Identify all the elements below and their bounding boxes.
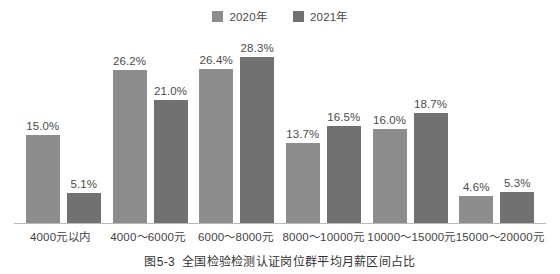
bar-item[interactable]: 26.4% <box>199 31 233 223</box>
bar-value-label: 4.6% <box>463 181 490 193</box>
bar-item[interactable]: 16.0% <box>373 31 407 223</box>
legend-item-2020: 2020年 <box>212 8 267 24</box>
bar-group: 4.6%5.3% <box>453 31 540 223</box>
bar-value-label: 26.2% <box>113 55 146 67</box>
bar[interactable] <box>154 100 188 223</box>
bar-value-label: 16.5% <box>327 111 360 123</box>
bar[interactable] <box>67 193 101 223</box>
legend-swatch-icon <box>293 11 304 22</box>
bar-value-label: 16.0% <box>373 114 406 126</box>
bar[interactable] <box>199 69 233 223</box>
bar-item[interactable]: 28.3% <box>240 31 274 223</box>
bar[interactable] <box>414 113 448 222</box>
bar[interactable] <box>26 135 60 223</box>
legend-label: 2020年 <box>229 8 267 24</box>
bar-value-label: 15.0% <box>26 120 59 132</box>
bar[interactable] <box>113 70 147 223</box>
bar-value-label: 26.4% <box>200 54 233 66</box>
x-axis-tick-label: 4000～6000元 <box>104 228 192 244</box>
legend-label: 2021年 <box>310 8 348 24</box>
chart-figure: 2020年 2021年 15.0%5.1%26.2%21.0%26.4%28.3… <box>0 0 560 274</box>
bar-groups: 15.0%5.1%26.2%21.0%26.4%28.3%13.7%16.5%1… <box>14 31 546 223</box>
bar-group: 26.2%21.0% <box>107 31 194 223</box>
caption-number: 图5-3 <box>144 255 175 269</box>
bar[interactable] <box>286 143 320 223</box>
bar-item[interactable]: 26.2% <box>113 31 147 223</box>
bar-group: 16.0%18.7% <box>367 31 454 223</box>
bar-group: 15.0%5.1% <box>20 31 107 223</box>
x-axis-tick-label: 6000～8000元 <box>192 228 280 244</box>
bar-item[interactable]: 16.5% <box>327 31 361 223</box>
bar[interactable] <box>240 57 274 222</box>
bar-value-label: 5.3% <box>504 177 531 189</box>
bar-item[interactable]: 13.7% <box>286 31 320 223</box>
caption-text: 全国检验检测认证岗位群平均月薪区间占比 <box>182 255 416 269</box>
bar[interactable] <box>327 126 361 222</box>
bar-value-label: 18.7% <box>414 98 447 110</box>
bar-value-label: 5.1% <box>71 178 98 190</box>
bar[interactable] <box>459 196 493 223</box>
bar[interactable] <box>500 192 534 223</box>
bar-group: 26.4%28.3% <box>193 31 280 223</box>
x-axis-tick-label: 4000元以内 <box>16 228 104 244</box>
bar-value-label: 13.7% <box>286 128 319 140</box>
legend-item-2021: 2021年 <box>293 8 348 24</box>
bar-item[interactable]: 18.7% <box>414 31 448 223</box>
x-axis-tick-label: 15000～20000元 <box>456 228 544 244</box>
x-axis-line <box>14 223 546 225</box>
bar-item[interactable]: 4.6% <box>459 31 493 223</box>
plot-area: 15.0%5.1%26.2%21.0%26.4%28.3%13.7%16.5%1… <box>14 30 546 224</box>
bar-group: 13.7%16.5% <box>280 31 367 223</box>
bar-item[interactable]: 15.0% <box>26 31 60 223</box>
bar-item[interactable]: 5.1% <box>67 31 101 223</box>
figure-caption: 图5-3全国检验检测认证岗位群平均月薪区间占比 <box>0 252 560 269</box>
chart-legend: 2020年 2021年 <box>0 8 560 24</box>
bar-value-label: 28.3% <box>241 42 274 54</box>
bar-value-label: 21.0% <box>154 85 187 97</box>
x-axis-tick-label: 10000～15000元 <box>367 228 455 244</box>
x-axis-tick-labels: 4000元以内4000～6000元6000～8000元8000～10000元10… <box>14 228 546 244</box>
legend-swatch-icon <box>212 11 223 22</box>
x-axis-tick-label: 8000～10000元 <box>279 228 367 244</box>
bar[interactable] <box>373 129 407 222</box>
bar-item[interactable]: 5.3% <box>500 31 534 223</box>
bar-item[interactable]: 21.0% <box>154 31 188 223</box>
